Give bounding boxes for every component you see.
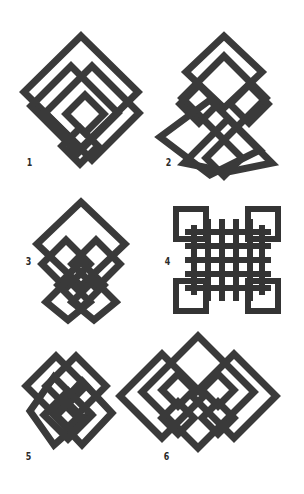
figure-label-1: 1	[27, 157, 33, 168]
figure-label-5: 5	[26, 451, 32, 462]
figure-1: 1	[0, 0, 152, 180]
figure-4: 4	[152, 180, 304, 335]
figure-2: 2	[152, 0, 304, 180]
knot-pattern-5-graphic	[0, 335, 120, 494]
knot-pattern-1-graphic	[0, 0, 152, 180]
figure-label-2: 2	[166, 157, 172, 168]
knot-pattern-3-graphic	[0, 180, 152, 335]
knot-pattern-6-graphic	[110, 330, 304, 494]
figure-6: 6	[110, 330, 304, 494]
knot-pattern-4-graphic	[152, 180, 304, 335]
knot-pattern-2-graphic	[152, 0, 304, 180]
figure-label-6: 6	[164, 451, 170, 462]
figure-label-4: 4	[165, 256, 171, 267]
figure-5: 5	[0, 335, 120, 494]
figure-label-3: 3	[26, 256, 32, 267]
figure-3: 3	[0, 180, 152, 335]
